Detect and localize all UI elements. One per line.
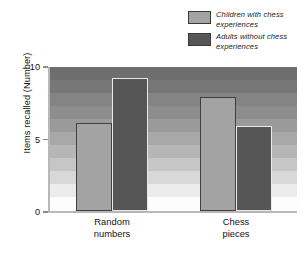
y-tick-mark-5	[43, 139, 48, 140]
y-tick-mark-0	[43, 211, 48, 212]
legend-item-adults: Adults without chess experiences	[188, 32, 307, 51]
y-tick-label-0: 0	[35, 208, 40, 217]
bar-random-adults	[112, 78, 148, 211]
x-tick-label-chess-pieces: Chess pieces	[184, 216, 288, 240]
bar-chess-adults	[236, 126, 272, 211]
plot-background	[50, 67, 297, 212]
x-tick-label-random-numbers: Random numbers	[60, 216, 164, 240]
legend-label-adults: Adults without chess experiences	[216, 32, 287, 51]
bar-chess-children	[200, 97, 236, 211]
bar-random-children	[76, 123, 112, 211]
y-tick-label-5: 5	[35, 135, 40, 144]
chart-legend: Children with chess experiences Adults w…	[188, 10, 307, 54]
legend-label-children: Children with chess experiences	[216, 10, 284, 29]
y-axis-label: Items recalled (Number)	[22, 28, 32, 178]
legend-swatch-children	[188, 11, 211, 24]
x-axis-line	[48, 211, 297, 213]
bar-chart-figure: Children with chess experiences Adults w…	[0, 0, 307, 258]
legend-item-children: Children with chess experiences	[188, 10, 307, 29]
y-tick-mark-10	[43, 66, 48, 67]
y-tick-label-10: 10	[30, 63, 40, 72]
legend-swatch-adults	[188, 33, 211, 46]
plot-area-wrapper: 10 5 0 Random numbers Chess pieces	[48, 67, 297, 213]
y-axis-line	[48, 67, 50, 213]
